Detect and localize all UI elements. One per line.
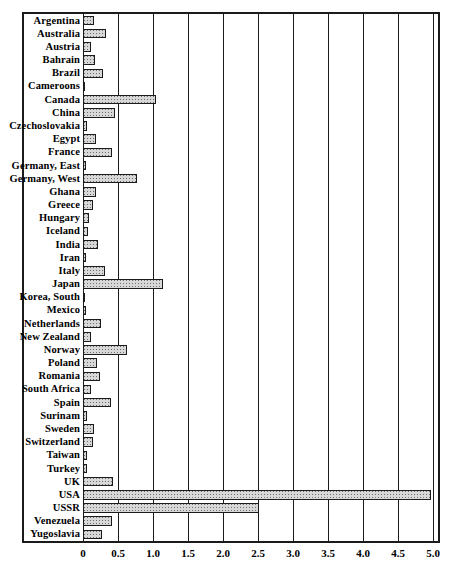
category-label: Germany, West	[9, 173, 80, 184]
bar	[83, 121, 87, 130]
category-label: Sweden	[45, 424, 80, 435]
category-label: Brazil	[52, 68, 80, 79]
category-label: Spain	[54, 397, 80, 408]
category-label: Mexico	[47, 305, 80, 316]
x-axis: 00.51.01.52.02.53.03.54.04.55.0	[22, 543, 440, 583]
bar-row: Korea, South	[24, 291, 438, 304]
bar-row: USA	[24, 488, 438, 501]
x-tick-label: 2.5	[251, 547, 265, 559]
category-label: Iran	[60, 252, 80, 263]
category-label: India	[56, 239, 80, 250]
category-label: Hungary	[39, 213, 80, 224]
category-label: USSR	[53, 503, 80, 514]
category-label: Egypt	[53, 134, 80, 145]
category-label: South Africa	[22, 384, 80, 395]
category-label: Ghana	[49, 187, 80, 198]
bar	[83, 16, 94, 25]
category-label: USA	[59, 490, 80, 501]
category-label: Italy	[59, 266, 81, 277]
bar-row: Japan	[24, 278, 438, 291]
bar	[83, 29, 106, 38]
bar	[83, 279, 163, 288]
category-label: Greece	[48, 200, 80, 211]
category-label: Venezuela	[34, 516, 80, 527]
category-label: New Zealand	[20, 332, 80, 343]
category-label: Switzerland	[25, 437, 80, 448]
bar	[83, 319, 101, 328]
bar-row: Turkey	[24, 462, 438, 475]
category-label: Turkey	[47, 463, 80, 474]
bar	[83, 95, 156, 104]
bar	[83, 134, 96, 143]
bar	[83, 451, 87, 460]
bar-row: UK	[24, 475, 438, 488]
category-label: Cameroons	[28, 81, 80, 92]
bar-row: Greece	[24, 198, 438, 211]
category-label: Surinam	[40, 411, 80, 422]
x-tick-label: 4.5	[391, 547, 405, 559]
bar	[83, 332, 91, 341]
bar-row: Mexico	[24, 304, 438, 317]
bar	[83, 55, 95, 64]
bar-row: Ghana	[24, 185, 438, 198]
bar	[83, 424, 94, 433]
category-label: Canada	[44, 94, 80, 105]
bar-row: Cameroons	[24, 80, 438, 93]
bar-row: Egypt	[24, 133, 438, 146]
bar	[83, 266, 105, 275]
bar-row: India	[24, 238, 438, 251]
bar	[83, 398, 111, 407]
category-label: Austria	[45, 42, 80, 53]
bar	[83, 516, 112, 525]
category-label: Australia	[37, 29, 80, 40]
bar	[83, 69, 103, 78]
bar-row: Hungary	[24, 212, 438, 225]
category-label: Romania	[38, 371, 80, 382]
category-label: Norway	[44, 345, 80, 356]
bar	[83, 227, 88, 236]
category-label: Korea, South	[19, 292, 80, 303]
x-tick-label: 0.5	[111, 547, 125, 559]
category-label: Czechoslovakia	[9, 121, 80, 132]
bar-row: Surinam	[24, 409, 438, 422]
category-label: Netherlands	[24, 318, 80, 329]
bar-row: Romania	[24, 370, 438, 383]
bar	[83, 358, 97, 367]
bar-row: Taiwan	[24, 449, 438, 462]
category-label: Iceland	[46, 226, 80, 237]
bar-row: Sweden	[24, 422, 438, 435]
bar-row: Bahrain	[24, 54, 438, 67]
bar	[83, 253, 86, 262]
bar	[83, 42, 91, 51]
x-tick-label: 1.5	[181, 547, 195, 559]
x-tick-label: 4.0	[356, 547, 370, 559]
x-tick-label: 0	[80, 547, 86, 559]
bar-row: South Africa	[24, 383, 438, 396]
bar-row: Iran	[24, 251, 438, 264]
bar	[83, 385, 91, 394]
bar	[83, 411, 87, 420]
bar-row: Poland	[24, 357, 438, 370]
bar	[83, 108, 115, 117]
bar-row: Netherlands	[24, 317, 438, 330]
category-label: Poland	[48, 358, 80, 369]
x-tick-label: 1.0	[146, 547, 160, 559]
bar-row: Venezuela	[24, 515, 438, 528]
bar-rows: ArgentinaAustraliaAustriaBahrainBrazilCa…	[24, 14, 438, 541]
bar-row: Canada	[24, 93, 438, 106]
category-label: Argentina	[34, 15, 80, 26]
bar-row: Australia	[24, 27, 438, 40]
bar-row: Iceland	[24, 225, 438, 238]
bar	[83, 372, 100, 381]
bar	[83, 464, 87, 473]
bar	[83, 437, 93, 446]
bar	[83, 82, 85, 91]
bar-row: Argentina	[24, 14, 438, 27]
bar-row: Austria	[24, 40, 438, 53]
bar	[83, 503, 259, 512]
bar-row: France	[24, 146, 438, 159]
bar	[83, 148, 112, 157]
bar-row: Italy	[24, 264, 438, 277]
bar-row: Czechoslovakia	[24, 119, 438, 132]
category-label: France	[48, 147, 80, 158]
